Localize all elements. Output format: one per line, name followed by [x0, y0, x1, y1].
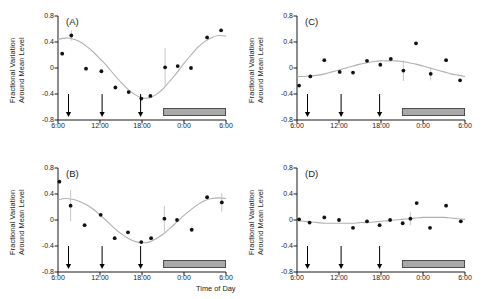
data-point	[415, 201, 419, 205]
x-axis-title: Time of Day	[196, 284, 236, 293]
night-shading-bar	[402, 108, 465, 116]
data-point	[444, 58, 448, 62]
data-point	[388, 218, 392, 222]
data-point	[190, 228, 194, 232]
y-tick-label: 0.8	[271, 164, 293, 171]
arrow-head	[339, 112, 344, 117]
x-tick-label: 6:00	[281, 274, 313, 281]
data-point	[163, 65, 167, 69]
y-tick-label: -0.4	[271, 90, 293, 97]
data-point	[127, 90, 131, 94]
y-axis-title: Fractional VariationAround Mean Level	[8, 166, 26, 278]
y-tick-label: 0.4	[271, 190, 293, 197]
data-point	[322, 216, 326, 220]
data-point	[149, 94, 153, 98]
arrow-head	[100, 264, 105, 269]
data-markers	[58, 180, 224, 244]
data-point	[205, 36, 209, 40]
data-point	[205, 195, 209, 199]
figure-root: 0.80.40-0.4-0.86:0012:0018:000:006:00(A)…	[0, 0, 485, 299]
x-tick-label: 0:00	[407, 122, 439, 129]
y-tick-label: 0.4	[32, 190, 54, 197]
y-axis-title-line1: Fractional Variation	[8, 166, 17, 278]
data-point	[84, 67, 88, 71]
night-shading-bar	[163, 108, 226, 116]
data-point	[139, 97, 143, 101]
night-shading-bar	[402, 260, 465, 268]
x-tick-label: 0:00	[168, 274, 200, 281]
data-markers	[297, 41, 462, 87]
x-tick-label: 12:00	[323, 122, 355, 129]
data-markers	[297, 201, 462, 230]
y-axis-title-line1: Fractional Variation	[247, 14, 256, 126]
data-point	[409, 217, 413, 221]
data-point	[60, 52, 64, 56]
arrow-head	[66, 112, 71, 117]
data-point	[163, 217, 167, 221]
error-bars	[71, 30, 165, 87]
x-tick-label: 0:00	[407, 274, 439, 281]
panel-letter-c: (C)	[305, 16, 318, 27]
y-tick-label: 0	[271, 64, 293, 71]
y-axis-title-line2: Around Mean Level	[256, 166, 265, 278]
x-tick-label: 18:00	[365, 274, 397, 281]
data-point	[337, 218, 341, 222]
fit-curve	[297, 61, 465, 77]
data-point	[365, 59, 369, 63]
x-tick-label: 6:00	[449, 274, 481, 281]
y-tick-label: -0.4	[32, 242, 54, 249]
y-tick-label: 0	[32, 64, 54, 71]
data-point	[428, 226, 432, 230]
y-axis-title: Fractional VariationAround Mean Level	[247, 166, 265, 278]
x-tick-label: 0:00	[168, 122, 200, 129]
night-shading-bar	[163, 260, 226, 268]
data-point	[58, 180, 62, 184]
y-axis-title: Fractional VariationAround Mean Level	[8, 14, 26, 126]
panel-letter-d: (D)	[305, 168, 318, 179]
data-point	[176, 64, 180, 68]
meal-time-arrows	[66, 94, 143, 117]
y-axis-title-line2: Around Mean Level	[256, 14, 265, 126]
arrow-head	[305, 264, 310, 269]
data-point	[429, 72, 433, 76]
arrow-head	[100, 112, 105, 117]
data-point	[220, 201, 224, 205]
error-bars	[71, 190, 222, 232]
arrow-head	[377, 112, 382, 117]
panel-letter-a: (A)	[66, 16, 79, 27]
data-point	[414, 41, 418, 45]
panel-letter-b: (B)	[66, 168, 79, 179]
y-axis-title-line1: Fractional Variation	[247, 166, 256, 278]
fit-curve	[58, 198, 226, 243]
x-tick-label: 18:00	[365, 122, 397, 129]
plot-canvas-d	[0, 0, 485, 299]
plot-canvas-c	[0, 0, 485, 299]
data-point	[219, 28, 223, 32]
data-point	[99, 213, 103, 217]
x-tick-label: 6:00	[281, 122, 313, 129]
y-tick-label: 0.4	[32, 38, 54, 45]
arrow-head	[305, 112, 310, 117]
arrow-head	[339, 264, 344, 269]
data-point	[378, 223, 382, 227]
y-tick-label: -0.4	[32, 90, 54, 97]
error-bars	[403, 60, 430, 81]
data-point	[402, 69, 406, 73]
y-axis-title-line2: Around Mean Level	[17, 14, 26, 126]
fit-curve	[58, 35, 226, 98]
y-tick-label: 0.8	[32, 12, 54, 19]
x-tick-label: 6:00	[449, 122, 481, 129]
data-markers	[60, 28, 223, 100]
fit-curve	[297, 217, 465, 223]
y-tick-label: 0	[32, 216, 54, 223]
x-tick-label: 12:00	[323, 274, 355, 281]
data-point	[322, 58, 326, 62]
y-axis-title-line1: Fractional Variation	[8, 14, 17, 126]
data-point	[297, 217, 301, 221]
meal-time-arrows	[305, 246, 382, 269]
data-point	[113, 236, 117, 240]
data-point	[389, 57, 393, 61]
y-tick-label: 0.4	[271, 38, 293, 45]
meal-time-arrows	[305, 94, 382, 117]
data-point	[297, 84, 301, 88]
